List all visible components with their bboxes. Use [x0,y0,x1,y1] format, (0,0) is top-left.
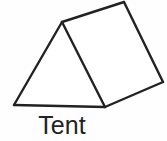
figure-page: Tent [0,0,167,141]
figure-caption: Tent [0,112,124,139]
